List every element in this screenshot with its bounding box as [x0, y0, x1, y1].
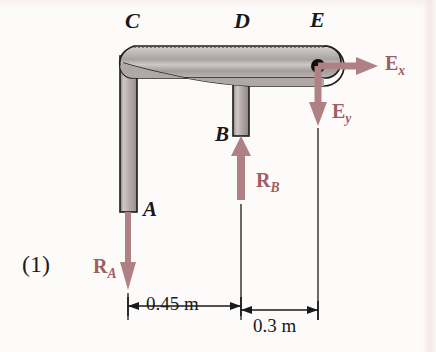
- member-rod-CA: [120, 56, 137, 212]
- force-symbol-Ex: E: [385, 52, 398, 74]
- force-label-RB: RB: [256, 170, 280, 195]
- force-label-RA: RA: [93, 256, 117, 281]
- point-label-A: A: [143, 199, 157, 220]
- force-arrow-RA: [120, 212, 136, 290]
- force-subscript-Ex: x: [398, 63, 405, 78]
- point-label-C: C: [125, 10, 140, 32]
- free-body-diagram: [0, 0, 436, 352]
- force-subscript-RB: B: [270, 180, 279, 195]
- member-rod-DB: [233, 84, 249, 136]
- force-symbol-RB: R: [256, 169, 270, 191]
- figure-index-label: (1): [22, 252, 50, 276]
- dimension-label-0.45m: 0.45 m: [146, 294, 199, 313]
- dimension-label-0.3m: 0.3 m: [253, 316, 296, 335]
- force-symbol-Ey: E: [332, 100, 345, 122]
- point-label-E: E: [310, 9, 325, 31]
- force-subscript-Ey: y: [345, 111, 351, 126]
- force-arrow-RB: [231, 136, 251, 200]
- member-beam-CE: [120, 46, 344, 86]
- point-label-D: D: [234, 10, 250, 32]
- force-label-Ex: Ex: [385, 53, 405, 78]
- figure-canvas: C D E B A Ex Ey RB RA 0.45 m 0.3 m (1): [0, 0, 436, 352]
- dimension-extension-lines: [128, 128, 318, 320]
- force-subscript-RA: A: [107, 266, 116, 281]
- point-label-B: B: [215, 124, 229, 145]
- force-label-Ey: Ey: [332, 101, 351, 126]
- force-symbol-RA: R: [93, 255, 107, 277]
